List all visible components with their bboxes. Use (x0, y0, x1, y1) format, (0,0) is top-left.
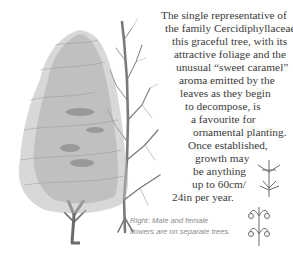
text-line: the family Cercidiphyllaceae, (165, 22, 293, 35)
text-line: leaves as they begin (180, 87, 271, 100)
book-page: The single representative of the family … (0, 0, 293, 263)
text-line: up to 60cm/ (192, 178, 246, 191)
text-line: to decompose, is (185, 100, 261, 113)
text-line: attractive foliage and the (174, 48, 286, 61)
caption-line-1: Right: Male and female (130, 215, 255, 226)
text-line: unusual “sweet caramel” (176, 61, 288, 74)
text-line: growth may (195, 152, 249, 165)
figure-caption: Right: Male and female flowers are on se… (130, 215, 255, 237)
text-line: this graceful tree, with its (172, 35, 287, 48)
text-line: aroma emitted by the (179, 74, 275, 87)
text-line: be anything (193, 165, 246, 178)
text-line: Once established, (188, 139, 268, 152)
text-line: The single representative of (161, 9, 287, 22)
text-line: 24in per year. (172, 191, 234, 204)
text-line: ornamental planting. (193, 126, 287, 139)
caption-line-2: flowers are on separate trees. (130, 226, 255, 237)
text-line: a favourite for (191, 113, 256, 126)
